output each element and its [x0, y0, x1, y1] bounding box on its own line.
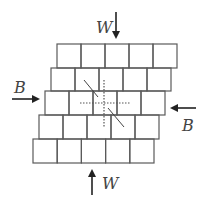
brick-block — [39, 115, 63, 139]
brick-block — [147, 68, 171, 91]
bottom-force-arrow-icon — [88, 169, 96, 195]
top-force-label: W — [96, 18, 114, 37]
brick-block — [99, 68, 123, 91]
left-force-label: B — [13, 78, 26, 97]
brick-block — [81, 44, 105, 68]
brick-block — [111, 115, 135, 139]
brick-block — [45, 91, 69, 115]
brick-block — [87, 115, 111, 139]
right-force-label: B — [181, 116, 194, 135]
brick-block — [135, 115, 159, 139]
brick-wall-force-diagram: W W B B — [0, 0, 206, 203]
brick-block — [57, 139, 81, 163]
brick-block — [141, 91, 165, 115]
right-force-arrow-icon — [170, 104, 196, 112]
top-force-arrow-icon — [112, 12, 120, 39]
brick-block — [153, 44, 177, 68]
brick-block — [51, 68, 75, 91]
brick-block — [57, 44, 81, 68]
brick-block — [129, 44, 153, 68]
brick-block — [106, 139, 130, 163]
brick-block — [81, 139, 105, 163]
brick-block — [130, 139, 154, 163]
brick-block — [63, 115, 87, 139]
bottom-force-label: W — [102, 174, 120, 193]
brick-block — [123, 68, 147, 91]
brick-block — [75, 68, 99, 91]
brick-block — [33, 139, 57, 163]
brick-block — [105, 44, 129, 68]
